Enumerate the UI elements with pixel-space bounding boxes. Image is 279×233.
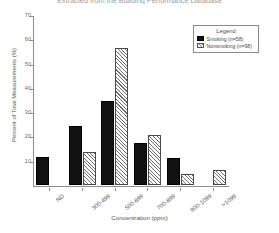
x-tick-mark [82,188,83,191]
legend-box: Legend Smoking (n=58)Nonsmoking (n=98) [193,25,259,53]
bar [36,157,49,185]
x-tick-label: 900-1099 [189,193,212,213]
legend-swatch-icon [197,36,204,41]
x-tick-label: ND [55,193,65,203]
y-tick-label: 70 [25,12,31,18]
x-tick-mark [213,188,214,191]
legend-swatch-icon [197,43,204,48]
x-tick-mark [115,188,116,191]
y-tick-label: 50 [25,61,31,67]
bar [148,135,161,185]
legend-item: Nonsmoking (n=98) [197,43,255,49]
legend-entries: Smoking (n=58)Nonsmoking (n=98) [197,36,255,49]
x-axis-line [33,186,229,187]
x-axis-title: Concentration (ppm) [0,214,279,221]
legend-item-label: Smoking (n=58) [207,36,244,42]
bar-group [36,15,63,185]
bar-group [101,15,128,185]
chart-title: Extracted from the Building Performance … [0,0,279,4]
y-tick-label: 40 [25,85,31,91]
x-tick-mark [49,188,50,191]
bar-group [167,15,194,185]
bar [134,143,147,186]
x-tick-label: 700-899 [156,193,177,211]
bar [101,101,114,185]
y-tick-label: 60 [25,36,31,42]
x-tick-mark [180,188,181,191]
legend-item-label: Nonsmoking (n=98) [207,43,252,49]
legend-title: Legend [197,28,255,34]
x-tick-label: >1099 [220,193,237,208]
y-tick-label: 10 [25,158,31,164]
bar [115,48,128,185]
x-tick-label: 500-699 [123,193,144,211]
y-axis-title: Percent of Total Measurements (%) [11,35,17,155]
x-tick-label: 300-499 [91,193,112,211]
bar-group [69,15,96,185]
legend-item: Smoking (n=58) [197,36,255,42]
y-tick-label: 20 [25,133,31,139]
bar [167,158,180,185]
bar [69,126,82,186]
bar [213,170,226,185]
bar-group [134,15,161,185]
bar [181,174,194,185]
bar [83,152,96,185]
x-tick-mark [147,188,148,191]
chart-figure: Extracted from the Building Performance … [0,0,279,233]
y-tick-label: 30 [25,109,31,115]
